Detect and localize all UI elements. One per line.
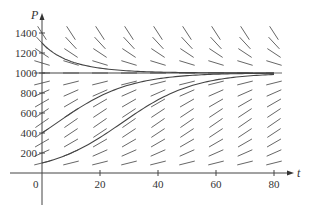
slope-segment <box>64 90 79 96</box>
slope-segment <box>151 90 166 96</box>
slope-segment <box>266 161 282 165</box>
slope-segment <box>238 118 251 127</box>
slope-segment <box>122 129 135 138</box>
slope-segment <box>267 49 280 58</box>
slope-segment <box>150 161 166 165</box>
slope-segment <box>96 26 105 39</box>
slope-segment <box>122 109 135 118</box>
slope-segment <box>209 139 223 147</box>
slope-segment <box>92 61 107 66</box>
slope-segment <box>209 118 222 127</box>
slope-segment <box>267 90 282 96</box>
y-ticks: 200400600800100012001400 <box>15 27 45 159</box>
slope-segment <box>122 118 135 127</box>
slope-segment <box>209 150 224 156</box>
slope-segment <box>179 81 195 85</box>
slope-segment <box>267 139 281 147</box>
y-tick-label: 800 <box>21 87 38 99</box>
slope-segment <box>122 139 136 147</box>
slope-segment <box>180 139 194 147</box>
slope-segment <box>209 109 222 118</box>
solution-curve <box>42 43 274 73</box>
slope-segment <box>151 118 164 127</box>
slope-segment <box>151 150 166 156</box>
slope-segment <box>209 90 224 96</box>
slope-segment <box>209 49 222 58</box>
x-tick-label: 80 <box>269 178 281 190</box>
slope-segment <box>64 129 77 138</box>
slope-segment <box>63 161 79 165</box>
origin-label: 0 <box>33 178 39 190</box>
slope-segment <box>125 26 134 39</box>
slope-segment <box>121 61 136 66</box>
direction-field <box>34 26 282 165</box>
x-axis-arrow-icon <box>287 171 294 176</box>
slope-segment <box>64 118 77 127</box>
slope-segment <box>180 49 193 58</box>
slope-segment <box>179 161 195 165</box>
slope-segment <box>63 81 79 85</box>
slope-segment <box>212 26 221 39</box>
slope-segment <box>270 26 279 39</box>
slope-segment <box>208 161 224 165</box>
slope-segment <box>92 161 108 165</box>
slope-segment <box>121 161 137 165</box>
slope-segment <box>267 129 280 138</box>
slope-segment <box>267 109 280 118</box>
slope-segment <box>122 49 135 58</box>
slope-segment <box>93 99 107 107</box>
slope-segment <box>93 109 106 118</box>
y-axis-label: P <box>30 8 39 22</box>
slope-segment <box>180 99 194 107</box>
slope-segment <box>122 150 137 156</box>
slope-segment <box>151 109 164 118</box>
x-axis-label: t <box>297 166 301 180</box>
slope-segment <box>238 109 251 118</box>
slope-segment <box>180 150 195 156</box>
y-tick-label: 400 <box>21 127 38 139</box>
x-tick-label: 60 <box>211 178 223 190</box>
slope-segment <box>237 61 252 66</box>
slope-segment <box>180 109 193 118</box>
y-tick-label: 1400 <box>15 27 38 39</box>
axes: t P 0 <box>10 8 301 205</box>
y-axis-arrow-icon <box>40 13 45 20</box>
slope-segment <box>183 26 192 39</box>
slope-segment <box>180 90 195 96</box>
x-tick-label: 20 <box>95 178 107 190</box>
slope-segment <box>154 26 163 39</box>
slope-segment <box>208 81 224 85</box>
slope-segment <box>151 49 164 58</box>
slope-segment <box>180 118 193 127</box>
y-tick-label: 200 <box>21 147 38 159</box>
slope-segment <box>267 150 282 156</box>
y-tick-label: 600 <box>21 107 38 119</box>
slope-segment <box>92 81 108 85</box>
slope-field-chart: t P 0 20406080 200400600800100012001400 <box>0 0 310 210</box>
slope-segment <box>64 99 78 107</box>
slope-segment <box>266 81 282 85</box>
y-tick-label: 1000 <box>15 67 38 79</box>
slope-segment <box>237 81 253 85</box>
slope-segment <box>180 129 193 138</box>
slope-segment <box>93 118 106 127</box>
slope-segment <box>238 150 253 156</box>
slope-segment <box>267 99 281 107</box>
slope-segment <box>93 90 108 96</box>
slope-segment <box>122 90 137 96</box>
y-tick-label: 1200 <box>15 47 38 59</box>
slope-segment <box>122 99 136 107</box>
slope-segment <box>238 99 252 107</box>
slope-segment <box>150 61 165 66</box>
slope-segment <box>238 129 251 138</box>
slope-segment <box>67 26 76 39</box>
slope-segment <box>64 49 77 58</box>
slope-segment <box>179 61 194 66</box>
slope-segment <box>151 139 165 147</box>
slope-segment <box>209 99 223 107</box>
slope-segment <box>93 150 108 156</box>
x-tick-label: 40 <box>153 178 165 190</box>
slope-segment <box>266 61 281 66</box>
slope-segment <box>150 81 166 85</box>
slope-segment <box>238 139 252 147</box>
